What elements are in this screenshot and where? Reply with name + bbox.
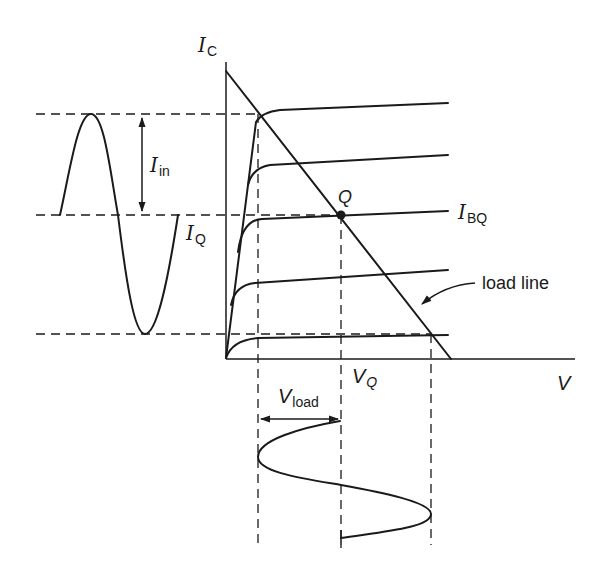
ibq-label: IBQ	[457, 200, 487, 226]
vq-label: VQ	[352, 365, 377, 390]
vload-label: Vload	[278, 385, 319, 410]
load-line-callout-arrow	[422, 283, 475, 304]
characteristic-curves	[226, 103, 448, 358]
iin-label: Iin	[149, 153, 170, 179]
load-line-label: load line	[482, 273, 549, 293]
y-axis-label: IC	[197, 33, 217, 59]
q-point-dot	[337, 211, 346, 220]
curve-1	[226, 103, 448, 358]
curve-4	[231, 270, 448, 305]
input-current-waveform	[60, 114, 178, 334]
load-line-diagram: IC V Iin IQ IBQ Q VQ Vload load line	[0, 0, 604, 582]
curve-5	[226, 335, 448, 358]
x-axis-label: V	[557, 372, 572, 394]
iq-label: IQ	[185, 221, 206, 247]
curve-2	[248, 155, 448, 185]
output-voltage-waveform	[258, 421, 431, 538]
q-point-label: Q	[338, 187, 352, 207]
